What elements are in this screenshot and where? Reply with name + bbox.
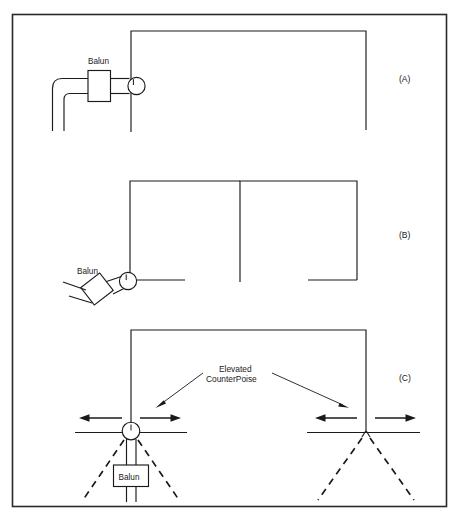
- panel-a-feedline-outer: [53, 79, 89, 132]
- diagram-canvas: Balun (A) Balun: [0, 0, 459, 521]
- panel-c-balun-label: Balun: [119, 473, 140, 482]
- panel-c-left-arrow-outward-head: [79, 414, 90, 421]
- panel-b-balun-body: [81, 273, 113, 305]
- panel-c-label: (C): [399, 373, 411, 383]
- panel-b-antenna-element-left: [130, 181, 240, 280]
- panel-a-feedline-inner: [64, 94, 88, 132]
- panel-c-counterpoise-callout: Elevated CounterPoise: [156, 364, 350, 408]
- panel-a-feedpoint-insulator: [128, 77, 145, 94]
- panel-c-right-junction-flare: [362, 431, 370, 438]
- panel-c-right-radial-dash-1: [318, 438, 362, 500]
- panel-b-balun-group: [81, 273, 113, 305]
- panel-a-balun-label: Balun: [88, 57, 109, 66]
- panel-c-callout-arrowhead-left: [156, 400, 167, 408]
- panel-b-balun-label: Balun: [77, 267, 98, 276]
- panel-a-antenna-element: [131, 31, 366, 132]
- panel-b-feedpoint-insulator: [119, 272, 136, 289]
- panel-a-balun-body: [88, 71, 111, 102]
- antenna-diagram-figure: Balun (A) Balun: [0, 0, 459, 521]
- panel-b-antenna-element-right: [240, 181, 357, 282]
- panel-c-callout-leader-left: [161, 373, 203, 404]
- panel-c-left-arrow-inward-head: [171, 414, 182, 421]
- panel-c-counterpoise-label-line2: CounterPoise: [206, 374, 257, 384]
- panel-a-label: (A): [399, 74, 411, 84]
- panel-c-right-arrow-inward-head: [315, 414, 326, 421]
- panel-c-left-current-arrows: [79, 414, 181, 421]
- panel-c-right-arrow-outward-head: [406, 414, 417, 421]
- panel-b-balun-lead-bottom: [113, 289, 124, 295]
- panel-a: Balun (A): [53, 31, 411, 132]
- panel-b-label: (B): [399, 230, 411, 240]
- panel-c-counterpoise-label-line1: Elevated: [219, 364, 252, 374]
- panel-c-right-radial-dash-2: [370, 438, 414, 500]
- panel-b: Balun (B): [63, 181, 411, 305]
- panel-c-callout-leader-right: [272, 373, 343, 405]
- panel-c: Balun: [75, 330, 420, 502]
- panel-c-callout-arrowhead-right: [338, 403, 349, 408]
